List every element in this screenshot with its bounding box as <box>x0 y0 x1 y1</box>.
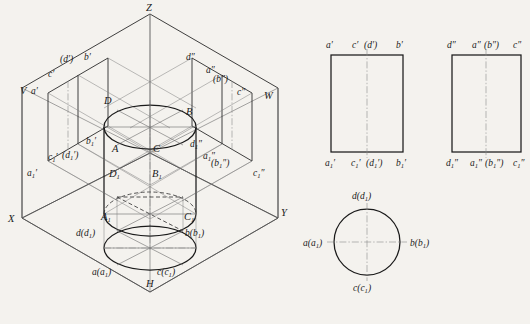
v-plane-projected-rectangle <box>48 58 196 201</box>
front-bottom-label-d1-prime: (d1′) <box>366 158 382 169</box>
axis-label-y: Y <box>281 207 288 218</box>
front-top-label-b-prime: b′ <box>396 40 404 50</box>
w-plane-projected-rectangle <box>104 58 252 201</box>
isometric-projection-frame: Z X Y V W H D B A C D1 B1 A1 C1 a′ c′ (d… <box>7 2 288 292</box>
v-label-d1-prime: (d1′) <box>62 150 78 161</box>
side-top-label-b-dprime: (b″) <box>484 40 499 51</box>
side-top-label-c-dprime: c″ <box>513 40 522 50</box>
top-view-projection: d(d1) a(a1) b(b1) c(c1) <box>303 191 429 294</box>
point-label-A: A <box>111 143 119 154</box>
point-label-D1: D1 <box>108 168 120 180</box>
front-view-projection: a′ c′ (d′) b′ a1′ c1′ (d1′) b1′ <box>325 40 407 169</box>
axis-label-x: X <box>7 213 15 224</box>
v-label-b1-prime: b1′ <box>86 136 97 147</box>
technical-drawing-svg: .thick { stroke:#1a1a1a; stroke-width:1.… <box>0 0 530 324</box>
w-label-c1-dprime: c1″ <box>253 168 266 179</box>
side-bottom-label-d1-dprime: d1″ <box>446 158 459 169</box>
h-label-d: d(d1) <box>76 228 95 239</box>
w-label-b1-dprime: (b1″) <box>211 158 229 169</box>
top-view-label-a: a(a1) <box>303 238 322 249</box>
point-label-B: B <box>186 106 193 117</box>
top-view-label-b: b(b1) <box>410 238 429 249</box>
v-label-c1-prime: c1′ <box>48 152 59 163</box>
front-bottom-label-b1-prime: b1′ <box>396 158 407 169</box>
v-label-d-prime: (d′) <box>60 54 73 65</box>
point-label-B1: B1 <box>152 168 162 180</box>
point-label-C: C <box>153 143 161 154</box>
side-bottom-label-c1-dprime: c1″ <box>513 158 526 169</box>
w-label-c-dprime: c″ <box>237 87 246 97</box>
point-label-D: D <box>103 95 112 106</box>
h-label-b: b(b1) <box>185 228 204 239</box>
front-bottom-label-c1-prime: c1′ <box>351 158 362 169</box>
h-label-c: c(c1) <box>157 267 175 278</box>
plane-label-h: H <box>145 278 155 289</box>
v-label-b-prime: b′ <box>84 52 92 62</box>
h-label-a: a(a1) <box>92 267 111 278</box>
top-view-label-d: d(d1) <box>352 191 371 202</box>
front-top-label-a-prime: a′ <box>326 40 334 50</box>
point-label-C1: C1 <box>184 211 194 223</box>
front-top-label-c-prime: c′ <box>352 40 359 50</box>
w-label-b-dprime: (b″) <box>213 74 228 85</box>
v-label-c-prime: c′ <box>48 69 55 79</box>
v-label-a1-prime: a1′ <box>27 168 38 179</box>
front-top-label-d-prime: (d′) <box>364 40 377 51</box>
side-bottom-label-a1-dprime: a1″ <box>470 158 483 169</box>
front-bottom-label-a1-prime: a1′ <box>325 158 336 169</box>
plane-label-w: W <box>264 90 274 101</box>
side-top-label-d-dprime: d″ <box>447 40 457 50</box>
w-label-d-dprime: d″ <box>186 52 196 62</box>
side-view-projection: d″ a″ (b″) c″ d1″ a1″ (b1″) c1″ <box>446 40 526 169</box>
drawing-canvas: .thick { stroke:#1a1a1a; stroke-width:1.… <box>0 0 530 324</box>
v-label-a-prime: a′ <box>31 86 39 96</box>
axis-label-z: Z <box>146 2 152 13</box>
point-label-A1: A1 <box>100 211 111 223</box>
plane-v-outline <box>22 14 150 218</box>
side-bottom-label-b1-dprime: (b1″) <box>485 158 503 169</box>
top-view-label-c: c(c1) <box>353 283 371 294</box>
side-top-label-a-dprime: a″ <box>472 40 482 50</box>
